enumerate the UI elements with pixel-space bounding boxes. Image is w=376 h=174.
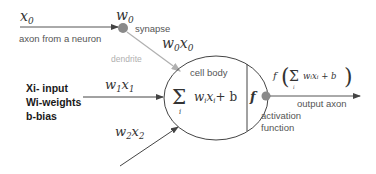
svg-text:Σ: Σ	[289, 68, 299, 84]
svg-text:f: f	[272, 70, 279, 81]
svg-text:dendrite: dendrite	[111, 54, 142, 64]
synapse-dot	[118, 23, 128, 33]
cell-body: cell body Σ i wixi+ b f	[164, 56, 268, 140]
neuron-diagram: x0 axon from a neuron w0 synapse w0x0 de…	[0, 0, 376, 174]
svg-text:Wi-weights: Wi-weights	[26, 96, 81, 108]
synapse: w0 synapse w0x0	[116, 7, 194, 53]
activation-f: f	[249, 89, 258, 104]
input-2: w2x2	[115, 124, 178, 166]
svg-text:w0: w0	[116, 7, 134, 25]
activation-function-label: activation function	[261, 110, 301, 133]
w0x0-product: w0x0	[162, 35, 194, 53]
sigma-symbol: Σ	[172, 85, 186, 109]
svg-text:function: function	[261, 122, 294, 133]
svg-text:w1x1: w1x1	[105, 77, 134, 94]
svg-text:output axon: output axon	[297, 98, 347, 109]
input-1: w1x1	[83, 77, 163, 97]
output-axon: output axon f ( Σ i wᵢxᵢ + b )	[262, 64, 361, 109]
svg-text:wixi+ b: wixi+ b	[194, 90, 237, 105]
svg-text:b-bias: b-bias	[26, 110, 57, 122]
activation-dot	[262, 92, 271, 101]
svg-text:x0: x0	[20, 8, 34, 26]
svg-text:activation: activation	[261, 110, 301, 121]
synapse-label: synapse	[135, 23, 170, 34]
input-axon: x0 axon from a neuron	[19, 8, 118, 44]
output-formula: f ( Σ i wᵢxᵢ + b )	[272, 64, 353, 90]
legend: Xi- input Wi-weights b-bias	[26, 82, 81, 122]
svg-text:cell body: cell body	[190, 67, 228, 78]
svg-text:): )	[344, 64, 353, 89]
axon-label: axon from a neuron	[19, 33, 101, 44]
svg-text:wᵢxᵢ + b: wᵢxᵢ + b	[303, 71, 336, 81]
svg-text:i: i	[293, 84, 295, 90]
svg-text:i: i	[179, 108, 181, 116]
svg-text:w2x2: w2x2	[115, 124, 144, 141]
svg-text:Xi- input: Xi- input	[26, 82, 68, 94]
